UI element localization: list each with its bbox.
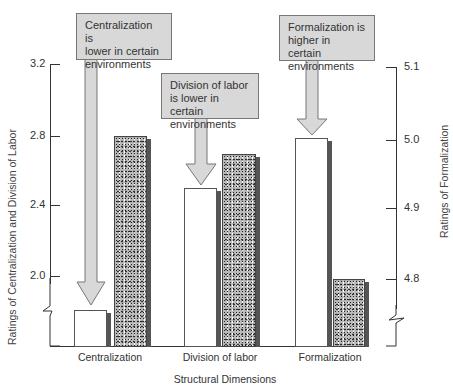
arrow-centralization [77,58,105,305]
callout-formalization: Formalization is higher in certain envir… [279,15,375,61]
category-label: Formalization [280,351,380,363]
callout-division: Division of labor is lower in certain en… [161,73,259,119]
category-label: Centralization [60,351,160,363]
x-axis-title: Structural Dimensions [160,373,290,385]
callout-arrows [0,0,453,386]
callout-centralization: Centralization is lower in certain envir… [76,13,172,60]
category-label: Division of labor [170,351,270,363]
